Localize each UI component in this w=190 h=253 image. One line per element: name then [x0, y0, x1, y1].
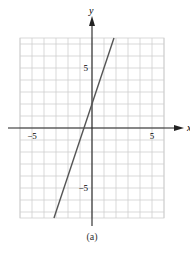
svg-text:5: 5: [150, 131, 155, 141]
svg-text:5: 5: [84, 63, 89, 73]
figure-caption: (a): [0, 231, 184, 242]
svg-text:−5: −5: [27, 131, 37, 141]
svg-text:y: y: [88, 5, 94, 16]
svg-text:−5: −5: [78, 183, 88, 193]
svg-text:x: x: [186, 122, 190, 133]
graph: xy−555−5: [0, 0, 190, 253]
